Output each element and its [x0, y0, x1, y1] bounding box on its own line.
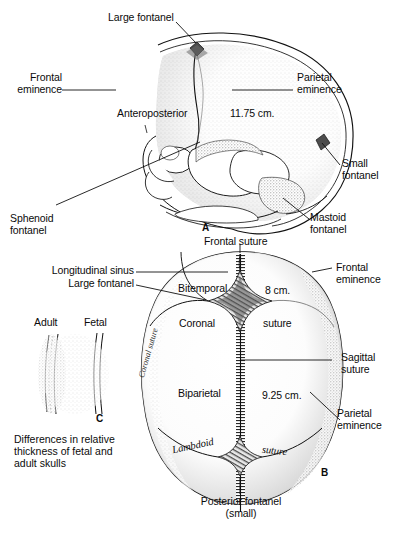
- measurement-anteroposterior: 11.75 cm.: [230, 108, 274, 120]
- label-sphenoid-fontanel: Sphenoid fontanel: [10, 213, 72, 236]
- label-parietal-eminence-b: Parietal eminence: [337, 408, 395, 431]
- label-posterior-fontanel: Posterior fontanel (small): [168, 496, 314, 519]
- label-sagittal-suture: Sagittal suture: [341, 352, 395, 375]
- label-adult: Adult: [34, 317, 57, 329]
- label-large-fontanel-a: Large fontanel: [108, 12, 174, 24]
- label-coronal: Coronal: [179, 318, 215, 330]
- label-biparietal: Biparietal: [178, 388, 221, 400]
- label-lambdoid-suture-word: suture: [261, 444, 287, 458]
- label-bitemporal: Bitemporal: [178, 283, 227, 295]
- label-parietal-eminence-a: Parietal eminence: [297, 72, 363, 95]
- label-anteroposterior: Anteroposterior: [117, 108, 187, 120]
- label-fetal: Fetal: [84, 317, 107, 329]
- figure-mark-c: C: [96, 413, 103, 424]
- label-large-fontanel-b: Large fontanel: [48, 278, 134, 290]
- panel-b-artwork: [136, 244, 343, 512]
- label-frontal-suture: Frontal suture: [204, 236, 267, 248]
- label-frontal-eminence-b: Frontal eminence: [336, 262, 394, 285]
- fetal-skull-figure: Large fontanel Frontal eminence Parietal…: [0, 0, 395, 536]
- label-longitudinal-sinus: Longitudinal sinus: [40, 265, 134, 277]
- panel-c-artwork: [38, 333, 109, 414]
- label-mastoid-fontanel: Mastoid fontanel: [310, 212, 372, 235]
- figure-mark-b: B: [321, 467, 328, 478]
- measurement-biparietal: 9.25 cm.: [262, 390, 301, 402]
- label-coronal-suture-word: suture: [263, 318, 292, 330]
- figure-mark-a: A: [202, 222, 209, 233]
- measurement-bitemporal: 8 cm.: [265, 285, 290, 297]
- label-frontal-eminence-a: Frontal eminence: [10, 72, 62, 95]
- caption-panel-c: Differences in relative thickness of fet…: [14, 433, 164, 470]
- panel-a-artwork: [56, 22, 353, 234]
- label-small-fontanel: Small fontanel: [342, 158, 394, 181]
